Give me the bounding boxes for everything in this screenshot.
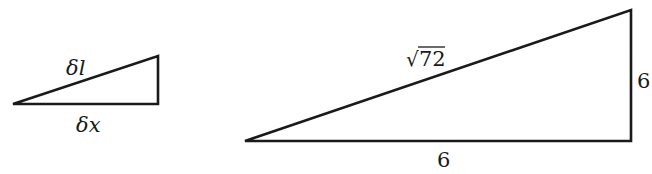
- small-hypotenuse-label: δl: [66, 56, 85, 80]
- large-triangle-shape: [245, 10, 631, 141]
- large-base-label: 6: [437, 148, 450, 172]
- large-height-label: 6: [637, 69, 650, 93]
- radical-sign: √: [406, 47, 419, 71]
- small-triangle-shape: [13, 56, 158, 104]
- diagram-canvas: δl δx √ 72 6 6: [0, 0, 652, 174]
- large-hypotenuse-label: √ 72: [406, 47, 446, 71]
- large-triangle: √ 72 6 6: [245, 10, 650, 172]
- radicand: 72: [419, 47, 446, 71]
- small-triangle: δl δx: [13, 56, 158, 137]
- small-base-label: δx: [76, 113, 101, 137]
